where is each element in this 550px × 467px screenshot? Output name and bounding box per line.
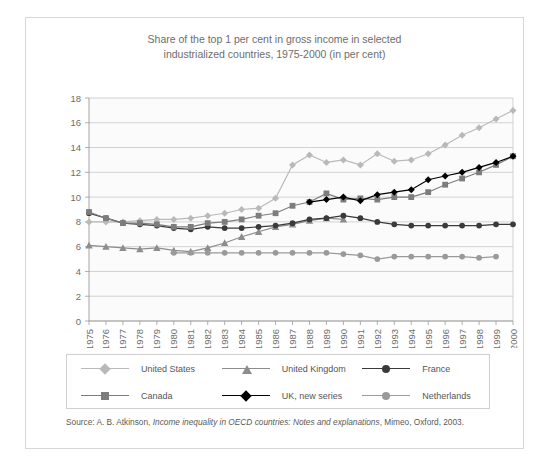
svg-text:1986: 1986 (270, 329, 281, 348)
legend-swatch-united-states (81, 363, 129, 375)
legend-item-uk-new-series[interactable]: UK, new series (208, 390, 349, 402)
svg-text:1996: 1996 (440, 329, 451, 348)
svg-text:2000: 2000 (508, 329, 519, 348)
legend-item-united-states[interactable]: United States (67, 363, 208, 375)
svg-text:0: 0 (76, 316, 81, 327)
svg-text:6: 6 (76, 241, 81, 252)
svg-text:1991: 1991 (355, 329, 366, 348)
svg-text:1998: 1998 (474, 329, 485, 348)
svg-text:1995: 1995 (423, 329, 434, 348)
svg-text:1979: 1979 (151, 329, 162, 348)
svg-text:1982: 1982 (202, 329, 213, 348)
svg-text:8: 8 (76, 216, 81, 227)
legend-swatch-united-kingdom (222, 363, 270, 375)
legend-label-uk-new-series: UK, new series (282, 391, 343, 401)
legend-item-united-kingdom[interactable]: United Kingdom (208, 363, 349, 375)
legend-swatch-uk-new-series (222, 390, 270, 402)
svg-text:1988: 1988 (304, 329, 315, 348)
svg-text:1994: 1994 (406, 329, 417, 348)
svg-text:4: 4 (76, 266, 81, 277)
legend-swatch-canada (81, 390, 129, 402)
legend-row-1: United States United Kingdom France (67, 355, 489, 382)
legend-label-canada: Canada (141, 391, 173, 401)
source-suffix: , Mimeo, Oxford, 2003. (380, 417, 464, 427)
svg-text:1997: 1997 (457, 329, 468, 348)
svg-text:1981: 1981 (185, 329, 196, 348)
svg-text:1987: 1987 (287, 329, 298, 348)
legend-item-france[interactable]: France (348, 363, 489, 375)
svg-text:1984: 1984 (236, 329, 247, 348)
chart-legend: United States United Kingdom France Cana… (66, 354, 490, 409)
svg-text:1989: 1989 (321, 329, 332, 348)
legend-item-netherlands[interactable]: Netherlands (348, 390, 489, 402)
svg-text:1976: 1976 (100, 329, 111, 348)
legend-swatch-france (362, 363, 410, 375)
svg-text:1985: 1985 (253, 329, 264, 348)
source-prefix: Source: A. B. Atkinson, (66, 417, 153, 427)
legend-label-netherlands: Netherlands (422, 391, 471, 401)
legend-label-france: France (422, 364, 450, 374)
figure-panel: Share of the top 1 per cent in gross inc… (25, 17, 524, 449)
svg-text:1977: 1977 (117, 329, 128, 348)
svg-text:1978: 1978 (134, 329, 145, 348)
source-note: Source: A. B. Atkinson, Income inequalit… (66, 416, 506, 428)
svg-text:1975: 1975 (84, 329, 95, 348)
svg-text:10: 10 (70, 192, 81, 203)
svg-text:1992: 1992 (372, 329, 383, 348)
legend-swatch-netherlands (362, 390, 410, 402)
svg-text:1983: 1983 (219, 329, 230, 348)
svg-text:1999: 1999 (491, 329, 502, 348)
svg-text:16: 16 (70, 117, 81, 128)
svg-text:18: 18 (70, 93, 81, 104)
legend-label-united-kingdom: United Kingdom (282, 364, 346, 374)
legend-label-united-states: United States (141, 364, 195, 374)
svg-text:1980: 1980 (168, 329, 179, 348)
legend-row-2: Canada UK, new series Netherlands (67, 382, 489, 409)
chart-plot-area: 0246810121416181975197619771978197919801… (26, 18, 525, 348)
svg-text:2: 2 (76, 291, 81, 302)
line-chart: 0246810121416181975197619771978197919801… (26, 18, 525, 348)
svg-text:14: 14 (70, 142, 81, 153)
legend-item-canada[interactable]: Canada (67, 390, 208, 402)
svg-text:12: 12 (70, 167, 81, 178)
svg-text:1990: 1990 (338, 329, 349, 348)
svg-text:1993: 1993 (389, 329, 400, 348)
source-title: Income inequality in OECD countries: Not… (153, 417, 380, 427)
